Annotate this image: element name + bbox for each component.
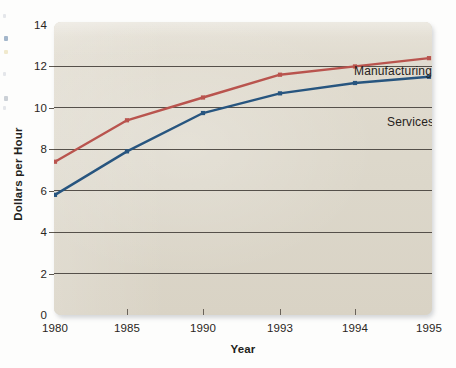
series-label-manufacturing: Manufacturing [354,64,432,78]
scan-artifact [3,14,6,18]
scan-artifact [4,36,8,41]
series-label-services: Services [387,115,432,129]
series-line-services [55,77,429,195]
chart-figure: 14 12 10 8 6 4 2 0 Manufacturing Service… [0,0,456,368]
data-point-marker [54,193,57,197]
x-axis-title: Year [54,343,432,355]
x-tick-mark [127,309,128,315]
data-point-marker [125,118,129,122]
scan-artifact [4,50,8,54]
scan-artifact [3,72,6,76]
x-tick-mark [203,309,204,315]
x-tick-mark [355,309,356,315]
scan-artifact [4,96,8,101]
x-tick-label: 1980 [28,322,82,334]
y-tick-label: 0 [14,309,47,321]
x-tick-label: 1993 [253,322,307,334]
plot-area: Manufacturing Services [54,22,432,315]
data-point-marker [54,160,57,164]
x-tick-label: 1994 [328,322,382,334]
x-tick-label: 1995 [402,322,456,334]
y-tick-label: 14 [14,19,47,31]
data-point-marker [278,91,282,95]
y-tick-label: 12 [14,60,47,72]
y-tick-label: 2 [14,268,47,280]
gridlines [54,66,432,273]
scan-artifact [3,106,6,110]
data-point-marker [427,56,431,60]
data-point-marker [125,149,129,153]
y-axis-title: Dollars per Hour [12,104,24,244]
data-point-marker [201,111,205,115]
x-tick-label: 1990 [176,322,230,334]
data-point-marker [278,73,282,77]
data-point-marker [201,95,205,99]
x-tick-label: 1985 [100,322,154,334]
x-tick-mark [280,309,281,315]
data-point-marker [353,81,357,85]
